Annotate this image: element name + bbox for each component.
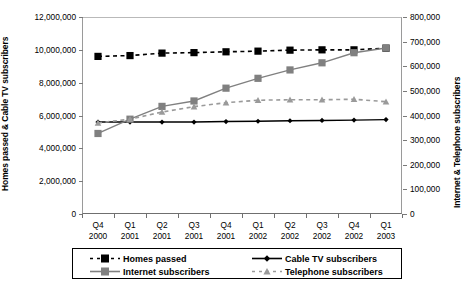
right-tick-mark xyxy=(403,42,407,43)
right-tick-mark xyxy=(403,189,407,190)
right-tick-label: 500,000 xyxy=(410,87,466,95)
left-tick-label: 4,000,000 xyxy=(14,144,76,152)
left-tick-label: 12,000,000 xyxy=(14,13,76,21)
x-tick-year: 2003 xyxy=(364,231,408,242)
left-axis-title: Homes passed & Cable TV subscribers xyxy=(0,14,10,214)
plot-area xyxy=(82,17,402,214)
left-tick-mark xyxy=(79,148,83,149)
legend-swatch-icon xyxy=(249,252,285,265)
left-tick-mark xyxy=(79,83,83,84)
right-tick-mark xyxy=(403,214,407,215)
right-tick-label: 600,000 xyxy=(410,62,466,70)
right-tick-label: 700,000 xyxy=(410,38,466,46)
x-tick-label: Q12003 xyxy=(364,220,408,241)
right-tick-mark xyxy=(403,66,407,67)
right-tick-mark xyxy=(403,17,407,18)
x-tick-mark xyxy=(274,214,275,218)
left-tick-mark xyxy=(79,50,83,51)
x-tick-mark xyxy=(146,214,147,218)
left-tick-label: 10,000,000 xyxy=(14,46,76,54)
x-tick-mark xyxy=(82,214,83,218)
right-tick-label: 300,000 xyxy=(410,136,466,144)
legend-item[interactable]: Homes passed xyxy=(87,252,187,265)
right-tick-mark xyxy=(403,165,407,166)
x-tick-mark xyxy=(306,214,307,218)
x-tick-mark xyxy=(402,214,403,218)
legend-swatch-icon xyxy=(87,252,123,265)
left-tick-mark xyxy=(79,181,83,182)
right-tick-label: 0 xyxy=(410,210,466,218)
x-tick-mark xyxy=(242,214,243,218)
left-tick-label: 6,000,000 xyxy=(14,112,76,120)
left-tick-label: 2,000,000 xyxy=(14,177,76,185)
right-tick-mark xyxy=(403,116,407,117)
left-tick-label: 8,000,000 xyxy=(14,79,76,87)
right-tick-label: 400,000 xyxy=(410,112,466,120)
x-tick-mark xyxy=(210,214,211,218)
legend-swatch-icon xyxy=(87,265,123,278)
legend-swatch-icon xyxy=(249,265,285,278)
legend-label: Internet subscribers xyxy=(123,267,210,277)
legend-item[interactable]: Cable TV subscribers xyxy=(249,252,377,265)
left-tick-mark xyxy=(79,116,83,117)
legend-label: Telephone subscribers xyxy=(285,267,383,277)
x-tick-mark xyxy=(338,214,339,218)
legend-item[interactable]: Telephone subscribers xyxy=(249,265,383,278)
legend-item[interactable]: Internet subscribers xyxy=(87,265,210,278)
x-tick-quarter: Q1 xyxy=(364,220,408,231)
legend-label: Homes passed xyxy=(123,254,187,264)
right-tick-mark xyxy=(403,91,407,92)
chart-legend: Homes passedCable TV subscribersInternet… xyxy=(72,248,402,279)
right-tick-mark xyxy=(403,140,407,141)
left-tick-mark xyxy=(79,17,83,18)
legend-label: Cable TV subscribers xyxy=(285,254,377,264)
right-tick-label: 100,000 xyxy=(410,185,466,193)
x-tick-mark xyxy=(114,214,115,218)
chart-container: Homes passed & Cable TV subscribers Inte… xyxy=(0,0,466,282)
right-tick-label: 800,000 xyxy=(410,13,466,21)
right-tick-label: 200,000 xyxy=(410,161,466,169)
x-tick-mark xyxy=(370,214,371,218)
left-tick-label: 0 xyxy=(14,210,76,218)
x-tick-mark xyxy=(178,214,179,218)
